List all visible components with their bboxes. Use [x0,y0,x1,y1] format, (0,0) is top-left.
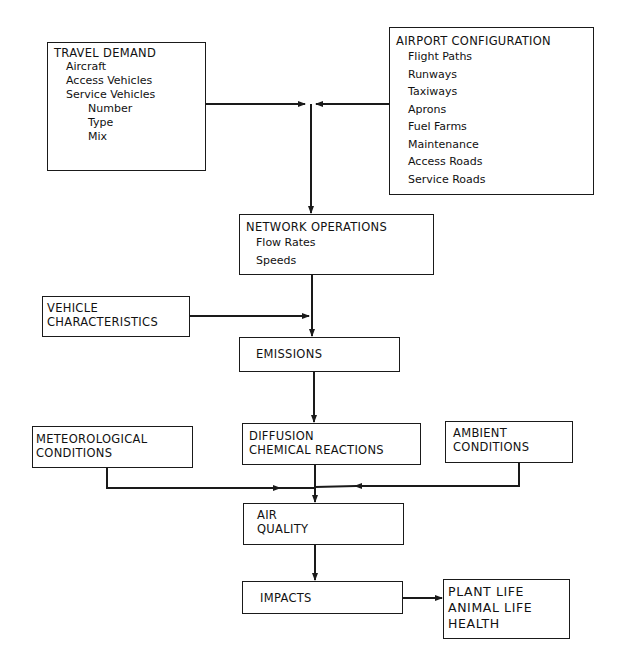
emissions-box: EMISSIONS [239,337,400,372]
ambient-conditions-label: AMBIENT [453,426,565,440]
diffusion-box: DIFFUSION CHEMICAL REACTIONS [242,423,421,465]
impacts-title: IMPACTS [260,591,385,605]
network-operations-item: Speeds [246,252,427,270]
diffusion-label: DIFFUSION [249,429,414,443]
air-quality-label: AIR [257,508,390,522]
meteorological-conditions-box: METEOROLOGICAL CONDITIONS [32,426,193,468]
vehicle-characteristics-box: VEHICLE CHARACTERISTICS [42,296,190,337]
airport-configuration-item: Aprons [396,101,587,119]
outcome-label: HEALTH [448,616,565,632]
emissions-title: EMISSIONS [256,347,383,361]
airport-configuration-item: Maintenance [396,136,587,154]
vehicle-characteristics-label: CHARACTERISTICS [47,315,185,329]
impacts-box: IMPACTS [242,581,403,614]
meteorological-conditions-label: METEOROLOGICAL [36,432,189,446]
airport-configuration-box: AIRPORT CONFIGURATION Flight Paths Runwa… [389,27,594,195]
travel-demand-subitem: Number [54,102,199,116]
airport-configuration-item: Taxiways [396,83,587,101]
travel-demand-box: TRAVEL DEMAND Aircraft Access Vehicles S… [47,42,206,171]
air-quality-box: AIR QUALITY [243,503,404,545]
travel-demand-title: TRAVEL DEMAND [54,46,199,60]
travel-demand-subitem: Type [54,116,199,130]
outcome-label: ANIMAL LIFE [448,600,565,616]
airport-configuration-title: AIRPORT CONFIGURATION [396,34,587,48]
airport-configuration-item: Fuel Farms [396,118,587,136]
network-operations-item: Flow Rates [246,234,427,252]
network-operations-box: NETWORK OPERATIONS Flow Rates Speeds [239,214,434,275]
outcome-label: PLANT LIFE [448,584,565,600]
diffusion-label: CHEMICAL REACTIONS [249,443,414,457]
travel-demand-subitem: Mix [54,130,199,144]
travel-demand-item: Access Vehicles [54,74,199,88]
ambient-conditions-label: CONDITIONS [453,440,565,454]
air-quality-label: QUALITY [257,522,390,536]
vehicle-characteristics-label: VEHICLE [47,301,185,315]
travel-demand-item: Aircraft [54,60,199,74]
ambient-conditions-box: AMBIENT CONDITIONS [445,421,573,463]
travel-demand-item: Service Vehicles [54,88,199,102]
meteorological-conditions-label: CONDITIONS [36,446,189,460]
outcomes-box: PLANT LIFE ANIMAL LIFE HEALTH [443,579,570,639]
airport-configuration-item: Access Roads [396,153,587,171]
network-operations-title: NETWORK OPERATIONS [246,220,427,234]
airport-configuration-item: Flight Paths [396,48,587,66]
airport-configuration-item: Service Roads [396,171,587,189]
airport-configuration-item: Runways [396,66,587,84]
